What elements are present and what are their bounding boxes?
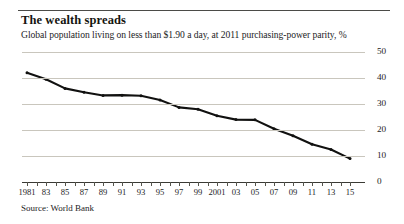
x-tick-label-05: 05 xyxy=(251,187,260,197)
x-tick xyxy=(208,182,209,186)
x-tick xyxy=(37,182,38,186)
x-tick-label-87: 87 xyxy=(80,187,89,197)
data-point xyxy=(178,106,181,109)
plot-area xyxy=(22,44,365,182)
x-tick xyxy=(94,182,95,186)
y-tick-label-50: 50 xyxy=(377,46,386,56)
x-tick xyxy=(255,182,256,186)
x-tick xyxy=(265,182,266,186)
x-tick xyxy=(293,182,294,186)
x-tick xyxy=(341,182,342,186)
x-tick xyxy=(56,182,57,186)
data-point xyxy=(235,118,238,121)
x-tick-label-95: 95 xyxy=(156,187,165,197)
data-point xyxy=(311,143,314,146)
x-tick xyxy=(170,182,171,186)
x-tick xyxy=(46,182,47,186)
data-point xyxy=(159,99,162,102)
x-tick xyxy=(27,182,28,186)
x-tick xyxy=(322,182,323,186)
x-tick xyxy=(246,182,247,186)
data-point xyxy=(216,114,219,117)
x-tick xyxy=(141,182,142,186)
gridline-10 xyxy=(22,156,365,157)
x-tick xyxy=(198,182,199,186)
data-point xyxy=(330,148,333,151)
x-tick xyxy=(84,182,85,186)
data-point xyxy=(292,134,295,137)
x-tick-label-91: 91 xyxy=(118,187,127,197)
page-title: The wealth spreads xyxy=(21,13,126,28)
data-point xyxy=(64,87,67,90)
x-tick-label-97: 97 xyxy=(175,187,184,197)
x-tick xyxy=(312,182,313,186)
x-tick xyxy=(331,182,332,186)
x-tick xyxy=(132,182,133,186)
data-point xyxy=(121,94,124,97)
x-tick-label-09: 09 xyxy=(289,187,298,197)
x-tick xyxy=(274,182,275,186)
x-tick xyxy=(217,182,218,186)
x-tick xyxy=(350,182,351,186)
data-point xyxy=(349,157,352,160)
gridline-40 xyxy=(22,78,365,79)
data-point xyxy=(140,94,143,97)
series-line xyxy=(22,44,365,182)
data-point xyxy=(197,108,200,111)
y-tick-label-10: 10 xyxy=(377,150,386,160)
top-rule xyxy=(18,10,390,11)
chart-figure: The wealth spreads Global population liv… xyxy=(0,0,404,224)
x-tick-label-2001: 2001 xyxy=(208,187,225,197)
data-point xyxy=(83,91,86,94)
data-point xyxy=(254,118,257,121)
x-tick xyxy=(236,182,237,186)
x-tick xyxy=(65,182,66,186)
gridline-30 xyxy=(22,104,365,105)
x-tick-label-07: 07 xyxy=(270,187,279,197)
y-tick-label-20: 20 xyxy=(377,124,386,134)
x-tick-label-15: 15 xyxy=(346,187,355,197)
x-tick-label-11: 11 xyxy=(308,187,316,197)
x-tick xyxy=(103,182,104,186)
x-tick-label-1981: 1981 xyxy=(18,187,35,197)
x-tick-label-83: 83 xyxy=(42,187,51,197)
y-tick-label-40: 40 xyxy=(377,72,386,82)
x-tick-label-99: 99 xyxy=(194,187,203,197)
gridline-50 xyxy=(22,52,365,53)
x-tick xyxy=(179,182,180,186)
x-tick xyxy=(284,182,285,186)
x-tick xyxy=(303,182,304,186)
x-tick xyxy=(75,182,76,186)
chart-subtitle: Global population living on less than $1… xyxy=(21,29,347,40)
data-point xyxy=(102,94,105,97)
x-tick xyxy=(151,182,152,186)
source-note: Source: World Bank xyxy=(21,203,94,213)
x-tick-label-13: 13 xyxy=(327,187,336,197)
x-tick xyxy=(113,182,114,186)
x-axis-ticks xyxy=(22,182,365,186)
x-tick-label-85: 85 xyxy=(61,187,70,197)
x-tick xyxy=(189,182,190,186)
gridline-20 xyxy=(22,130,365,131)
x-tick-label-03: 03 xyxy=(232,187,241,197)
x-tick xyxy=(122,182,123,186)
x-tick xyxy=(227,182,228,186)
x-tick-label-89: 89 xyxy=(99,187,108,197)
y-tick-label-0: 0 xyxy=(377,176,382,186)
y-tick-label-30: 30 xyxy=(377,98,386,108)
data-point xyxy=(26,71,29,74)
x-tick xyxy=(160,182,161,186)
x-tick-label-93: 93 xyxy=(137,187,146,197)
